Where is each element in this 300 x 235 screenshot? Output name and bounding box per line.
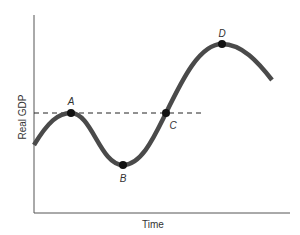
point-a-marker <box>67 109 75 117</box>
business-cycle-diagram: A B C D Time Real GDP <box>0 0 300 235</box>
point-c-label: C <box>169 120 177 131</box>
point-b-label: B <box>120 173 127 184</box>
point-b-marker <box>119 161 127 169</box>
point-a-label: A <box>67 96 75 107</box>
y-axis-label: Real GDP <box>17 94 28 139</box>
point-d-label: D <box>218 28 225 39</box>
point-c-marker <box>162 109 170 117</box>
x-axis-label: Time <box>142 219 164 230</box>
point-d-marker <box>218 40 226 48</box>
